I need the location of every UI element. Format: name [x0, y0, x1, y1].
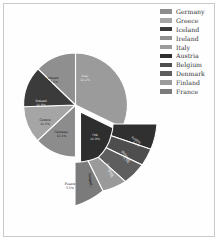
pie-label-iceland-value: 12.9%: [36, 103, 46, 107]
legend-item-finland[interactable]: Finland: [159, 78, 215, 87]
pie-label-italy-value: 32.2%: [80, 78, 90, 82]
legend-item-germany[interactable]: Germany: [159, 7, 215, 16]
legend-swatch-finland: [159, 79, 173, 85]
legend-item-ireland[interactable]: Ireland: [159, 34, 215, 43]
legend-item-denmark[interactable]: Denmark: [159, 69, 215, 78]
legend-item-iceland[interactable]: Iceland: [159, 25, 215, 34]
legend-label-iceland: Iceland: [176, 26, 199, 33]
legend-label-austria: Austria: [176, 52, 199, 59]
legend-item-greece[interactable]: Greece: [159, 16, 215, 25]
legend-label-denmark: Denmark: [176, 70, 205, 77]
legend-item-france[interactable]: France: [159, 87, 215, 96]
chart-screenshot: Italy 32.2% Oth 21.9% Germany 13.1% Gree…: [0, 0, 218, 241]
legend-swatch-iceland: [159, 26, 173, 32]
legend-swatch-italy: [159, 44, 173, 50]
chart-legend: Germany Greece Iceland Ireland Italy Aus…: [159, 7, 215, 96]
legend-label-germany: Germany: [176, 8, 205, 15]
legend-label-finland: Finland: [176, 79, 200, 86]
legend-swatch-austria: [159, 53, 173, 59]
pie-label-greece-value: 11.5%: [40, 122, 50, 126]
legend-label-greece: Greece: [176, 17, 198, 24]
legend-item-austria[interactable]: Austria: [159, 51, 215, 60]
detail-arc-group: Austria 4.1% Belgium 3.7% Denmark 4.1% F…: [65, 124, 157, 206]
legend-swatch-ireland: [159, 35, 173, 41]
legend-item-italy[interactable]: Italy: [159, 43, 215, 52]
pie-label-ireland-value: 17.1%: [48, 80, 58, 84]
legend-swatch-belgium: [159, 62, 173, 68]
pie-label-other-value: 21.9%: [90, 137, 100, 141]
legend-label-belgium: Belgium: [176, 61, 202, 68]
pie-label-germany-value: 13.1%: [57, 134, 67, 138]
legend-item-belgium[interactable]: Belgium: [159, 60, 215, 69]
legend-swatch-germany: [159, 8, 173, 14]
legend-label-italy: Italy: [176, 44, 190, 51]
legend-swatch-greece: [159, 17, 173, 23]
legend-label-france: France: [176, 88, 198, 95]
legend-swatch-france: [159, 88, 173, 94]
legend-swatch-denmark: [159, 70, 173, 76]
arc-label-france-value: 5.5%: [66, 186, 74, 190]
legend-label-ireland: Ireland: [176, 35, 199, 42]
